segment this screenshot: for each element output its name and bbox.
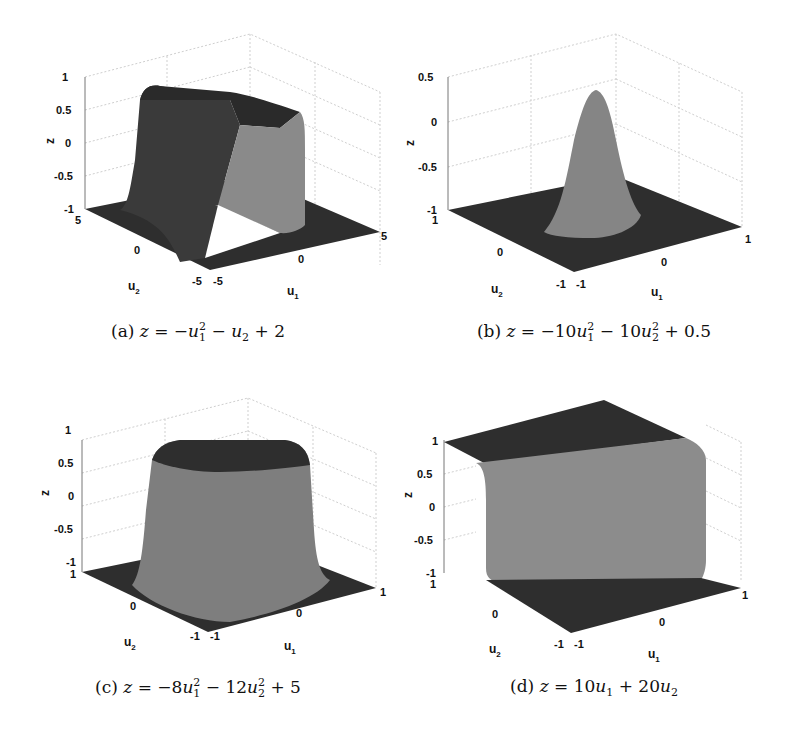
z-tick: 0.5 (418, 71, 433, 83)
caption-a: (a) z = −u21 − u2 + 2 (0, 320, 396, 344)
panel-a: 1 0.5 0 -0.5 -1 z 5 0 -5 -5 0 5 u2 u1 (a… (0, 0, 396, 370)
surface-peak (544, 90, 641, 238)
u1-tick: 0 (661, 256, 667, 268)
z-tick: 0.5 (417, 468, 432, 480)
surface-plot-d: 1 0.5 0 -0.5 -1 z 1 0 -1 -1 0 1 u2 u1 (396, 390, 792, 680)
panel-d: 1 0.5 0 -0.5 -1 z 1 0 -1 -1 0 1 u2 u1 (d… (396, 390, 792, 753)
z-tick: 0.5 (58, 457, 73, 469)
u1-axis-label: u1 (284, 639, 296, 656)
u2-tick: 1 (432, 214, 438, 226)
u2-tick: 1 (70, 568, 76, 580)
u2-axis-label: u2 (128, 279, 140, 296)
panel-b: 0.5 0 -0.5 -1 z 1 0 -1 -1 0 1 u2 u1 (b) … (396, 0, 792, 370)
u1-tick: 0 (659, 616, 665, 628)
u2-tick: 0 (497, 246, 503, 258)
surface-plot-c: 1 0.5 0 -0.5 -1 z 1 0 -1 -1 0 1 u2 u1 (0, 390, 396, 680)
z-axis-label: z (403, 140, 417, 146)
z-tick: 0 (429, 501, 435, 513)
caption-b: (b) z = −10u21 − 10u22 + 0.5 (396, 320, 792, 344)
z-axis-label: z (43, 138, 57, 144)
z-tick: -1 (66, 556, 76, 568)
z-tick: 1 (65, 424, 71, 436)
z-tick: 0 (65, 137, 71, 149)
u1-tick: 0 (298, 253, 304, 265)
z-tick: -0.5 (54, 523, 73, 535)
u2-tick: 0 (492, 608, 498, 620)
z-tick: 0 (68, 490, 74, 502)
u1-tick: -1 (574, 638, 584, 650)
surface-bottom-plateau (486, 578, 741, 633)
panel-c: 1 0.5 0 -0.5 -1 z 1 0 -1 -1 0 1 u2 u1 (c… (0, 390, 396, 753)
surface-plot-b: 0.5 0 -0.5 -1 z 1 0 -1 -1 0 1 u2 u1 (396, 0, 792, 330)
u1-tick: 1 (380, 586, 386, 598)
z-tick: -1 (64, 203, 74, 215)
surface-plot-a: 1 0.5 0 -0.5 -1 z 5 0 -5 -5 0 5 u2 u1 (0, 0, 396, 330)
u2-axis-label: u2 (491, 282, 503, 299)
z-tick: 0.5 (56, 104, 71, 116)
z-tick: -0.5 (418, 161, 437, 173)
u1-tick: -1 (210, 630, 220, 642)
u2-tick: -1 (190, 630, 200, 642)
u1-tick: 0 (296, 607, 302, 619)
u2-tick: 5 (75, 214, 81, 226)
caption-d: (d) z = 10u1 + 20u2 (396, 676, 792, 699)
u1-axis-label: u1 (287, 284, 299, 301)
u1-tick: -1 (576, 278, 586, 290)
z-tick: 1 (62, 71, 68, 83)
u2-axis-label: u2 (124, 635, 136, 652)
z-axis-label: z (38, 490, 52, 496)
surface-step-face (476, 438, 706, 582)
z-tick: -0.5 (414, 534, 433, 546)
u1-tick: -5 (213, 275, 223, 287)
u2-tick: 0 (134, 244, 140, 256)
u1-axis-label: u1 (651, 285, 663, 302)
u2-tick: 1 (430, 578, 436, 590)
u2-tick: 0 (130, 600, 136, 612)
u1-axis-label: u1 (648, 647, 660, 664)
u1-tick: 1 (742, 589, 748, 601)
u1-tick: 1 (745, 233, 751, 245)
caption-c: (c) z = −8u21 − 12u22 + 5 (0, 676, 396, 700)
u2-axis-label: u2 (489, 642, 501, 659)
z-tick: 1 (432, 435, 438, 447)
u2-tick: -5 (192, 275, 202, 287)
u2-tick: -1 (556, 278, 566, 290)
surface-plateau-top (152, 440, 310, 472)
u2-tick: -1 (554, 638, 564, 650)
z-axis-label: z (401, 492, 415, 498)
u1-tick: 5 (381, 230, 387, 242)
z-tick: 0 (431, 116, 437, 128)
z-tick: -0.5 (54, 170, 73, 182)
